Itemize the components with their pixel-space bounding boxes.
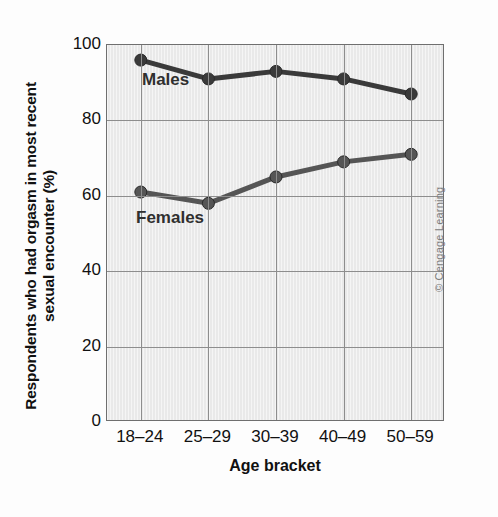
gridline-horizontal bbox=[107, 196, 443, 197]
gridline-vertical bbox=[411, 45, 412, 420]
gridline-horizontal bbox=[107, 120, 443, 121]
gridline-vertical bbox=[141, 45, 142, 420]
y-tick-label: 40 bbox=[57, 260, 101, 280]
gridline-horizontal bbox=[107, 271, 443, 272]
y-tick-label: 20 bbox=[57, 336, 101, 356]
gridline-vertical bbox=[276, 45, 277, 420]
chart-figure: Respondents who had orgasm in most recen… bbox=[0, 0, 498, 517]
copyright-notice: © Cengage Learning bbox=[433, 152, 445, 292]
gridline-vertical bbox=[344, 45, 345, 420]
series-label-males: Males bbox=[142, 70, 189, 90]
x-axis-title: Age bracket bbox=[106, 457, 444, 475]
y-tick-label: 100 bbox=[57, 34, 101, 54]
plot-area bbox=[106, 44, 444, 421]
y-axis-title: Respondents who had orgasm in most recen… bbox=[22, 46, 58, 446]
x-tick-label: 50–59 bbox=[370, 427, 450, 447]
gridline-horizontal bbox=[107, 347, 443, 348]
gridline-vertical bbox=[208, 45, 209, 420]
y-tick-label: 0 bbox=[57, 411, 101, 431]
y-tick-label: 60 bbox=[57, 185, 101, 205]
y-axis-tick-labels: 020406080100 bbox=[55, 0, 101, 517]
y-tick-label: 80 bbox=[57, 109, 101, 129]
series-label-females: Females bbox=[136, 208, 204, 228]
x-axis-tick-labels: 18–2425–2930–3940–4950–59 bbox=[106, 427, 444, 453]
